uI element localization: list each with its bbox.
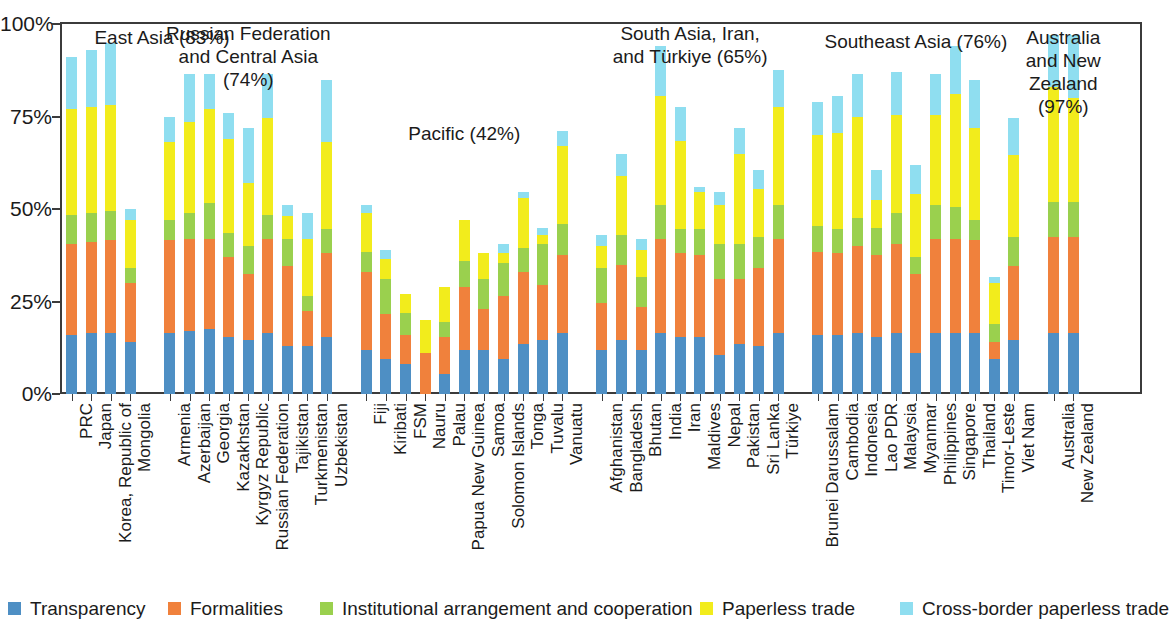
bar-nepal[interactable] bbox=[714, 192, 725, 394]
bar-segment-formalities bbox=[636, 307, 647, 350]
bar-nauru[interactable] bbox=[420, 320, 431, 394]
bar-segment-cross-border-paperless-trade bbox=[969, 80, 980, 128]
y-axis-tick-mark bbox=[52, 208, 60, 210]
bar-maldives[interactable] bbox=[694, 187, 705, 394]
x-axis-tick-mark bbox=[366, 394, 367, 401]
x-axis-tick-mark bbox=[641, 394, 642, 401]
bar-segment-formalities bbox=[557, 255, 568, 333]
bar-segment-transparency bbox=[164, 333, 175, 394]
bar-tonga[interactable] bbox=[518, 192, 529, 394]
legend-item-paperless-trade[interactable]: Paperless trade bbox=[700, 599, 855, 618]
bar-segment-formalities bbox=[86, 242, 97, 333]
bar-bhutan[interactable] bbox=[636, 239, 647, 394]
bar-philippines[interactable] bbox=[930, 74, 941, 394]
bar-korea-republic-of[interactable] bbox=[105, 43, 116, 395]
bar-segment-cross-border-paperless-trade bbox=[891, 72, 902, 115]
bar-papua-new-guinea[interactable] bbox=[459, 220, 470, 394]
group-title-southeast-asia: Southeast Asia (76%) bbox=[806, 30, 1026, 53]
x-axis-label-new-zealand: New Zealand bbox=[1079, 403, 1096, 503]
bar-tajikistan[interactable] bbox=[282, 205, 293, 394]
x-axis-label-malaysia: Malaysia bbox=[902, 403, 919, 470]
x-axis-tick-mark bbox=[975, 394, 976, 401]
x-axis-label-timor-leste: Timor-Leste bbox=[1000, 403, 1017, 493]
bar-segment-cross-border-paperless-trade bbox=[66, 57, 77, 109]
bar-segment-transparency bbox=[459, 350, 470, 394]
bar-prc[interactable] bbox=[66, 57, 77, 394]
bar-segment-institutional-arrangement-and-cooperation bbox=[655, 205, 666, 238]
bar-segment-cross-border-paperless-trade bbox=[125, 209, 136, 220]
bar-mongolia[interactable] bbox=[125, 209, 136, 394]
x-axis-label-fiji: Fiji bbox=[372, 403, 389, 425]
bar-segment-institutional-arrangement-and-cooperation bbox=[86, 213, 97, 243]
x-axis-tick-mark bbox=[857, 394, 858, 401]
bar-fsm[interactable] bbox=[400, 294, 411, 394]
bar-segment-paperless-trade bbox=[989, 283, 1000, 324]
legend-item-institutional-arrangement-and-cooperation[interactable]: Institutional arrangement and cooperatio… bbox=[320, 599, 693, 618]
legend-swatch-green bbox=[320, 602, 333, 615]
bar-segment-paperless-trade bbox=[537, 235, 548, 244]
bar-malaysia[interactable] bbox=[891, 72, 902, 394]
bar-timor-leste[interactable] bbox=[989, 277, 1000, 394]
bar-segment-transparency bbox=[1048, 333, 1059, 394]
bar-azerbaijan[interactable] bbox=[184, 74, 195, 394]
bar-myanmar[interactable] bbox=[910, 165, 921, 394]
bar-russian-federation[interactable] bbox=[262, 74, 273, 394]
bar-thailand[interactable] bbox=[969, 80, 980, 395]
bar-segment-cross-border-paperless-trade bbox=[596, 235, 607, 246]
bar-segment-institutional-arrangement-and-cooperation bbox=[950, 207, 961, 238]
legend-item-transparency[interactable]: Transparency bbox=[8, 599, 145, 618]
x-axis-tick-mark bbox=[190, 394, 191, 401]
bar-segment-transparency bbox=[734, 344, 745, 394]
bar-segment-cross-border-paperless-trade bbox=[302, 213, 313, 239]
bar-segment-institutional-arrangement-and-cooperation bbox=[596, 268, 607, 303]
bar-lao-pdr[interactable] bbox=[871, 170, 882, 394]
bar-segment-transparency bbox=[871, 337, 882, 394]
bar-fiji[interactable] bbox=[361, 205, 372, 394]
bar-kiribati[interactable] bbox=[380, 250, 391, 394]
bar-segment-cross-border-paperless-trade bbox=[636, 239, 647, 250]
bar-sri-lanka[interactable] bbox=[753, 170, 764, 394]
bar-tuvalu[interactable] bbox=[537, 228, 548, 395]
x-axis-tick-mark bbox=[818, 394, 819, 401]
x-axis-label-mongolia: Mongolia bbox=[136, 403, 153, 472]
legend-item-cross-border-paperless-trade[interactable]: Cross-border paperless trade bbox=[900, 599, 1169, 618]
bar-segment-paperless-trade bbox=[557, 146, 568, 224]
bar-kyrgyz-republic[interactable] bbox=[243, 128, 254, 394]
legend-swatch-yellow bbox=[700, 602, 713, 615]
bar-segment-transparency bbox=[950, 333, 961, 394]
bar-segment-paperless-trade bbox=[714, 205, 725, 244]
bar-armenia[interactable] bbox=[164, 117, 175, 395]
bar-bangladesh[interactable] bbox=[616, 154, 627, 395]
bar-segment-transparency bbox=[478, 350, 489, 394]
x-axis-label-turkmenistan: Turkmenistan bbox=[313, 403, 330, 505]
bar-uzbekistan[interactable] bbox=[321, 80, 332, 395]
bar-indonesia[interactable] bbox=[852, 74, 863, 394]
bar-pakistan[interactable] bbox=[734, 128, 745, 394]
bar-t-rkiye[interactable] bbox=[773, 70, 784, 394]
bar-segment-institutional-arrangement-and-cooperation bbox=[734, 244, 745, 279]
bar-palau[interactable] bbox=[439, 287, 450, 394]
bar-afghanistan[interactable] bbox=[596, 235, 607, 394]
bar-brunei-darussalam[interactable] bbox=[812, 102, 823, 394]
x-axis-tick-mark bbox=[72, 394, 73, 401]
bar-segment-cross-border-paperless-trade bbox=[930, 74, 941, 115]
bar-segment-paperless-trade bbox=[439, 287, 450, 322]
bar-turkmenistan[interactable] bbox=[302, 213, 313, 394]
bar-viet-nam[interactable] bbox=[1008, 118, 1019, 394]
bar-segment-paperless-trade bbox=[871, 200, 882, 228]
bar-solomon-islands[interactable] bbox=[498, 244, 509, 394]
bar-japan[interactable] bbox=[86, 50, 97, 394]
bar-segment-transparency bbox=[184, 331, 195, 394]
legend-label: Cross-border paperless trade bbox=[922, 599, 1169, 618]
y-axis-tick-label: 25% bbox=[0, 291, 52, 312]
legend-item-formalities[interactable]: Formalities bbox=[168, 599, 283, 618]
bar-singapore[interactable] bbox=[950, 46, 961, 394]
bar-segment-formalities bbox=[518, 272, 529, 344]
bar-samoa[interactable] bbox=[478, 253, 489, 394]
bar-georgia[interactable] bbox=[204, 74, 215, 394]
bar-cambodia[interactable] bbox=[832, 96, 843, 394]
bar-vanuatu[interactable] bbox=[557, 131, 568, 394]
bar-india[interactable] bbox=[655, 46, 666, 394]
bar-kazakhstan[interactable] bbox=[223, 113, 234, 394]
bar-iran[interactable] bbox=[675, 107, 686, 394]
